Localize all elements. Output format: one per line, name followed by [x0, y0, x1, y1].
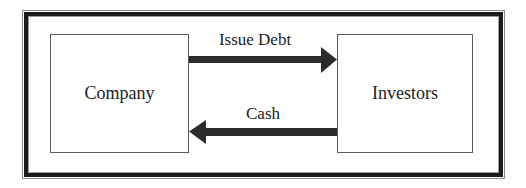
cash-label: Cash [246, 104, 280, 124]
arrows-layer [0, 0, 526, 188]
issue-debt-label: Issue Debt [219, 30, 291, 50]
issue-debt-arrow-icon [189, 47, 337, 73]
